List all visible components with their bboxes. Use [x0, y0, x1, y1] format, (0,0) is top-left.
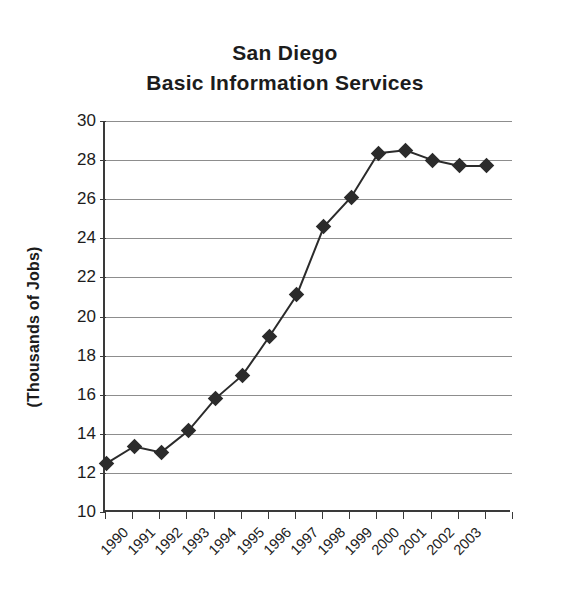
chart-figure: San Diego Basic Information Services (Th…: [0, 0, 570, 609]
y-tick-label: 26: [77, 189, 96, 209]
x-tick-mark: [349, 512, 350, 519]
y-tick-label: 10: [77, 502, 96, 522]
y-tick-label: 16: [77, 385, 96, 405]
y-tick-label: 28: [77, 150, 96, 170]
x-tick-mark: [105, 512, 106, 519]
x-tick-mark: [431, 512, 432, 519]
x-tick-mark: [295, 512, 296, 519]
x-tick-mark: [132, 512, 133, 519]
y-tick-label: 20: [77, 307, 96, 327]
x-tick-mark: [403, 512, 404, 519]
x-tick-mark: [186, 512, 187, 519]
x-tick-mark: [268, 512, 269, 519]
y-tick-label: 22: [77, 267, 96, 287]
x-tick-mark: [458, 512, 459, 519]
y-tick-label: 18: [77, 346, 96, 366]
y-tick-label: 30: [77, 111, 96, 131]
y-tick-label: 12: [77, 463, 96, 483]
x-tick-mark: [214, 512, 215, 519]
y-tick-label: 24: [77, 228, 96, 248]
x-tick-mark: [485, 512, 486, 519]
chart-title: San Diego Basic Information Services: [0, 38, 570, 98]
chart-title-line-1: San Diego: [0, 38, 570, 68]
chart-title-line-2: Basic Information Services: [0, 68, 570, 98]
y-axis-label: (Thousands of Jobs): [25, 207, 43, 447]
plot-area: 1012141618202224262830 19901991199219931…: [103, 121, 510, 512]
x-tick-mark: [322, 512, 323, 519]
x-axis-ticks-group: 1990199119921993199419951996199719981999…: [105, 512, 512, 602]
x-tick-mark: [159, 512, 160, 519]
y-tick-label: 14: [77, 424, 96, 444]
x-tick-mark: [241, 512, 242, 519]
x-tick-mark: [512, 512, 513, 519]
x-tick-mark: [376, 512, 377, 519]
